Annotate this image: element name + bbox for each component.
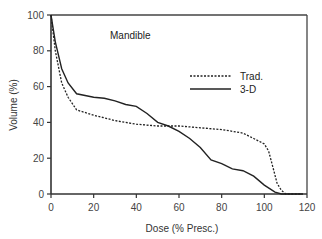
- y-tick-label: 80: [33, 45, 45, 56]
- x-tick-label: 0: [48, 202, 54, 213]
- legend-trad-label: Trad.: [240, 71, 263, 82]
- series-group: [51, 15, 303, 194]
- y-tick-label: 0: [38, 189, 44, 200]
- x-tick-label: 60: [173, 202, 185, 213]
- x-tick-label: 80: [216, 202, 228, 213]
- x-ticks: 020406080100120: [48, 194, 316, 213]
- x-tick-label: 40: [131, 202, 143, 213]
- y-tick-label: 20: [33, 153, 45, 164]
- y-ticks: 020406080100: [27, 10, 51, 200]
- y-axis-label: Volume (%): [8, 79, 19, 131]
- series-trad-line: [51, 15, 303, 194]
- legend: Trad. 3-D: [190, 71, 263, 95]
- structure-annotation: Mandible: [110, 30, 151, 41]
- x-tick-label: 100: [256, 202, 273, 213]
- x-tick-label: 20: [88, 202, 100, 213]
- dvh-chart: 020406080100 020406080100120 Mandible Tr…: [0, 0, 322, 239]
- series-3d-line: [51, 15, 303, 194]
- y-tick-label: 40: [33, 117, 45, 128]
- x-tick-label: 120: [299, 202, 316, 213]
- legend-3d-label: 3-D: [240, 84, 256, 95]
- x-axis-label: Dose (% Presc.): [146, 223, 219, 234]
- y-tick-label: 60: [33, 81, 45, 92]
- plot-frame: [51, 15, 307, 194]
- y-tick-label: 100: [27, 10, 44, 21]
